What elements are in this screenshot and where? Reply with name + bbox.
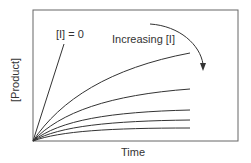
curve-3 [33, 110, 190, 141]
curve-4 [33, 120, 190, 141]
y-axis-label: [Product] [9, 58, 21, 102]
curve-no-inhibitor [33, 44, 64, 141]
increasing-label: Increasing [I] [112, 34, 175, 45]
zero-inhibitor-label: [I] = 0 [56, 29, 84, 40]
x-axis-label: Time [121, 147, 145, 158]
inhibition-plot [0, 0, 251, 163]
arrow-head-icon [200, 63, 206, 71]
curve-5 [33, 128, 190, 141]
